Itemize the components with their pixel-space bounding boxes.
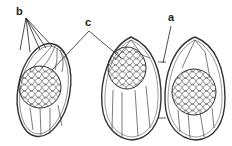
left-spore: [10, 39, 78, 141]
left-sporoplasm: [19, 66, 61, 108]
middle-sporoplasm: [108, 47, 146, 89]
leader-lines: [20, 18, 171, 70]
right-spore: [165, 37, 225, 140]
label-b: b: [16, 6, 23, 17]
right-sporoplasm: [172, 69, 216, 115]
spore-diagram: [0, 0, 232, 146]
label-c: c: [85, 17, 91, 28]
middle-spore: [102, 37, 161, 140]
label-a: a: [168, 12, 174, 23]
